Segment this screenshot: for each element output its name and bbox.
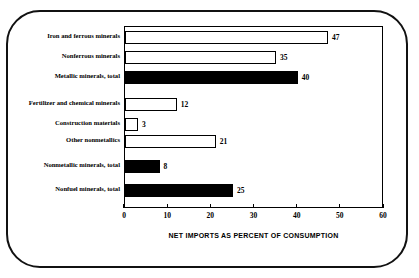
bar-4 xyxy=(125,98,177,111)
bar-7 xyxy=(125,160,160,173)
bar-3 xyxy=(125,71,298,84)
x-tick-label: 10 xyxy=(155,212,179,220)
x-tick-mark xyxy=(253,204,254,208)
bar-value-label: 40 xyxy=(302,74,310,82)
x-tick-mark xyxy=(339,204,340,208)
x-tick-mark xyxy=(167,204,168,208)
plot-area: 47354012321825 xyxy=(124,26,383,208)
bar-row: 40 xyxy=(125,71,384,84)
category-label: Fertilizer and chemical minerals xyxy=(0,100,120,107)
bar-value-label: 25 xyxy=(237,187,245,195)
x-tick-label: 30 xyxy=(242,212,266,220)
category-label: Other nonmetallics xyxy=(0,137,120,144)
bar-row: 8 xyxy=(125,160,384,173)
bar-row: 25 xyxy=(125,184,384,197)
bar-value-label: 35 xyxy=(280,54,288,62)
x-tick-mark xyxy=(382,204,383,208)
x-axis-title: NET IMPORTS AS PERCENT OF CONSUMPTION xyxy=(124,232,383,239)
x-tick-label: 0 xyxy=(112,212,136,220)
category-label: Nonmetallic minerals, total xyxy=(0,162,120,169)
x-tick-mark xyxy=(210,204,211,208)
x-tick-mark xyxy=(123,204,124,208)
bar-row: 47 xyxy=(125,31,384,44)
category-label: Nonferrous minerals xyxy=(0,53,120,60)
bar-value-label: 47 xyxy=(332,34,340,42)
x-tick-label: 60 xyxy=(371,212,395,220)
bar-row: 3 xyxy=(125,118,384,131)
bar-value-label: 21 xyxy=(220,138,228,146)
bar-row: 21 xyxy=(125,135,384,148)
category-label: Nonfuel minerals, total xyxy=(0,186,120,193)
bar-1 xyxy=(125,31,328,44)
bar-2 xyxy=(125,51,276,64)
category-label: Metallic minerals, total xyxy=(0,73,120,80)
bar-5 xyxy=(125,118,138,131)
x-tick-label: 20 xyxy=(198,212,222,220)
bar-value-label: 8 xyxy=(164,163,168,171)
category-label: Construction materials xyxy=(0,120,120,127)
x-tick-mark xyxy=(296,204,297,208)
bars-container: 47354012321825 xyxy=(125,27,382,207)
bar-value-label: 12 xyxy=(181,101,189,109)
x-tick-label: 50 xyxy=(328,212,352,220)
chart-figure: Iron and ferrous mineralsNonferrous mine… xyxy=(0,0,419,278)
bar-value-label: 3 xyxy=(142,121,146,129)
bar-8 xyxy=(125,184,233,197)
bar-row: 35 xyxy=(125,51,384,64)
bar-6 xyxy=(125,135,216,148)
x-tick-label: 40 xyxy=(285,212,309,220)
category-label: Iron and ferrous minerals xyxy=(0,33,120,40)
bar-row: 12 xyxy=(125,98,384,111)
